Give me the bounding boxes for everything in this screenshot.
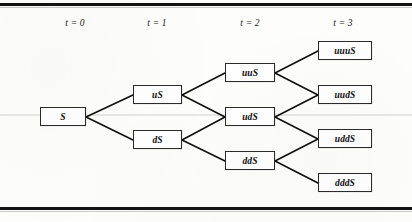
binomial-tree-figure: t = 0t = 1t = 2t = 3 SuSdSuuSudSddSuuuSu… bbox=[0, 0, 412, 222]
tree-edge-ddS-to-uddS bbox=[275, 139, 318, 161]
tree-edge-ddS-to-dddS bbox=[275, 161, 318, 183]
tree-node-uuS[interactable]: uuS bbox=[225, 63, 275, 82]
tree-node-S[interactable]: S bbox=[40, 107, 86, 126]
tree-node-uS[interactable]: uS bbox=[133, 85, 182, 104]
tree-node-uuuS[interactable]: uuuS bbox=[318, 41, 372, 60]
tree-edge-uuS-to-uudS bbox=[275, 73, 318, 95]
tree-node-ddS[interactable]: ddS bbox=[225, 151, 275, 170]
tree-node-uddS[interactable]: uddS bbox=[318, 129, 372, 148]
tree-edge-S-to-dS bbox=[86, 117, 133, 140]
tree-edge-dS-to-udS bbox=[182, 117, 225, 140]
tree-node-udS[interactable]: udS bbox=[225, 107, 275, 126]
tree-edge-uS-to-udS bbox=[182, 95, 225, 117]
bottom-rule-hairline bbox=[0, 211, 412, 212]
tree-node-dddS[interactable]: dddS bbox=[318, 173, 372, 192]
tree-node-dS[interactable]: dS bbox=[133, 130, 182, 149]
tree-edge-S-to-uS bbox=[86, 95, 133, 117]
tree-edge-uS-to-uuS bbox=[182, 73, 225, 95]
tree-edge-dS-to-ddS bbox=[182, 140, 225, 161]
tree-edge-udS-to-uudS bbox=[275, 95, 318, 117]
tree-node-uudS[interactable]: uudS bbox=[318, 85, 372, 104]
tree-edge-uuS-to-uuuS bbox=[275, 51, 318, 73]
tree-edge-udS-to-uddS bbox=[275, 117, 318, 139]
bottom-rule bbox=[0, 207, 412, 210]
